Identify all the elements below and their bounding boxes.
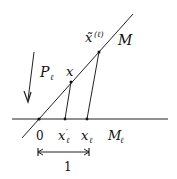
- point-x: [70, 81, 73, 84]
- label-x-prime-sub: ℓ: [66, 136, 70, 145]
- label-x-tilde: x̃: [85, 30, 93, 45]
- label-x-tilde-sup: (ℓ): [94, 30, 104, 39]
- label-x-prime-sup: ′: [66, 127, 68, 136]
- projection-diagram: M x̃ (ℓ) P ℓ x 0 x ′ ℓ x ℓ M ℓ 1: [0, 0, 177, 179]
- arrow-down-icon: [24, 91, 31, 102]
- projection-x: [65, 82, 71, 119]
- point-x-tilde: [98, 51, 101, 54]
- point-x-ell: [86, 118, 89, 121]
- label-x: x: [66, 64, 74, 79]
- label-unit: 1: [64, 160, 72, 174]
- label-zero: 0: [36, 129, 44, 143]
- label-P-sub: ℓ: [50, 73, 54, 82]
- label-x-prime: x: [58, 128, 66, 143]
- label-x-ell-sub: ℓ: [89, 136, 93, 145]
- label-M-ell-sub: ℓ: [120, 136, 124, 145]
- projection-x-tilde: [87, 52, 99, 119]
- label-P: P: [39, 64, 50, 80]
- point-origin: [37, 117, 40, 120]
- label-x-ell: x: [81, 128, 89, 143]
- label-M: M: [117, 32, 133, 48]
- point-x-prime: [64, 118, 67, 121]
